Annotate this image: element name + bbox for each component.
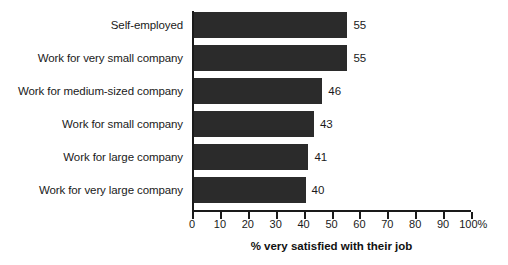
bar-value-label: 43 [320,118,333,130]
x-axis-tick-label: 50 [325,218,337,230]
category-label: Work for small company [0,111,188,137]
bar-value-label: 46 [328,85,341,97]
category-label: Work for very small company [0,45,188,71]
x-axis-tick-labels: 0102030405060708090100% [192,218,471,234]
bar-row: 55 [194,45,366,71]
bar-row: 55 [194,12,366,38]
x-axis-tick-label: 30 [270,218,282,230]
x-axis-tick-label: 70 [381,218,393,230]
category-label: Work for medium-sized company [0,78,188,104]
category-label: Self-employed [0,12,188,38]
bar-series: 55 55 46 43 41 40 [194,12,366,210]
x-axis-tick-label: 10 [214,218,226,230]
bar [194,111,314,137]
bar-value-label: 55 [353,19,366,31]
category-label: Work for very large company [0,177,188,203]
bar [194,45,347,71]
bar-value-label: 55 [353,52,366,64]
bar [194,144,308,170]
bar-row: 46 [194,78,366,104]
x-axis-tick-label: 80 [409,218,421,230]
bar-row: 40 [194,177,366,203]
bar-row: 41 [194,144,366,170]
x-axis-tick-label: 60 [353,218,365,230]
bar [194,78,322,104]
x-axis-tick-label: 100% [459,218,487,230]
x-axis-tick-label: 90 [437,218,449,230]
bar [194,177,306,203]
bar-row: 43 [194,111,366,137]
category-label: Work for large company [0,144,188,170]
bar [194,12,347,38]
bar-value-label: 40 [312,184,325,196]
bar-value-label: 41 [314,151,327,163]
x-axis-tick-label: 20 [242,218,254,230]
x-axis-title: % very satisfied with their job [192,240,471,252]
category-axis-labels: Self-employed Work for very small compan… [0,12,188,210]
x-axis-tick-label: 0 [189,218,195,230]
x-axis-tick-label: 40 [297,218,309,230]
bar-chart: Self-employed Work for very small compan… [0,0,508,265]
